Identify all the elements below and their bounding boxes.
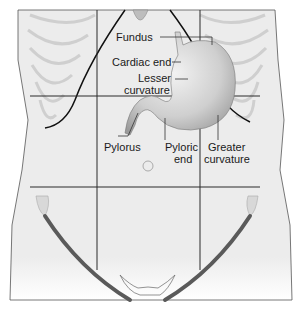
abdomen-diagram: Fundus Cardiac end Lesser curvature Pylo… — [0, 0, 293, 310]
label-greater-curvature-line1: Greater — [208, 141, 245, 153]
label-greater-curvature-line2: curvature — [204, 153, 250, 165]
label-pyloric-end-line2: end — [174, 153, 192, 165]
label-cardiac-end: Cardiac end — [112, 56, 171, 68]
label-pylorus: Pylorus — [104, 141, 141, 153]
label-pyloric-end-line1: Pyloric — [165, 141, 198, 153]
label-fundus: Fundus — [116, 31, 153, 43]
label-lesser-curvature-line1: Lesser — [138, 72, 171, 84]
label-lesser-curvature-line2: curvature — [124, 84, 170, 96]
